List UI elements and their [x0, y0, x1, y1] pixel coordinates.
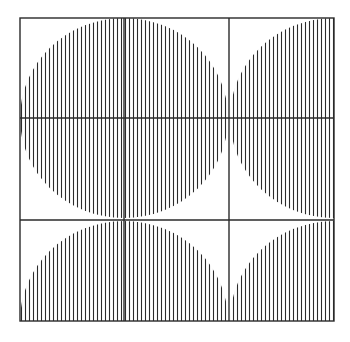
hatched-quarter-circle-r1c2 — [230, 118, 334, 218]
hatched-quarter-circle-r0c0 — [20, 18, 124, 118]
hatched-quarter-circle-r0c2 — [230, 18, 334, 118]
hatched-grid-figure — [0, 0, 350, 342]
hatched-quarter-circle-r1c0 — [20, 118, 124, 218]
hatched-quarter-circle-r2c0 — [20, 221, 124, 321]
hatched-quarter-circle-r1c1 — [124, 118, 228, 218]
hatched-quarter-circle-r2c1 — [124, 221, 228, 321]
hatched-quarter-circle-r0c1 — [124, 18, 228, 118]
hatched-shapes — [20, 18, 334, 321]
hatched-quarter-circle-r2c2 — [230, 221, 334, 321]
